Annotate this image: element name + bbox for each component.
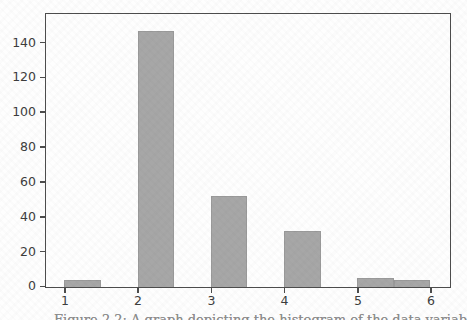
- y-axis-tick-mark: [40, 146, 45, 148]
- y-axis-tick-label: 100: [4, 105, 36, 119]
- y-axis-tick-label: 40: [4, 210, 36, 224]
- y-axis-tick-label: 80: [4, 140, 36, 154]
- x-axis-tick-label: 1: [50, 294, 80, 308]
- caption-fragment: Figure 2.2: A graph depicting the histog…: [54, 313, 448, 320]
- y-axis-tick-mark: [40, 181, 45, 183]
- y-axis-tick-label: 140: [4, 36, 36, 50]
- histogram-bar: [138, 31, 175, 287]
- x-axis-tick-label: 5: [343, 294, 373, 308]
- x-axis-tick-label: 4: [270, 294, 300, 308]
- y-axis-tick-mark: [40, 111, 45, 113]
- x-axis-tick-label: 6: [416, 294, 446, 308]
- histogram-bar: [357, 278, 394, 287]
- histogram-bar: [284, 231, 321, 287]
- histogram-bar: [211, 196, 248, 287]
- histogram-bar: [64, 280, 101, 287]
- x-axis-tick-label: 2: [123, 294, 153, 308]
- y-axis-tick-label: 120: [4, 70, 36, 84]
- y-axis-tick-mark: [40, 251, 45, 253]
- y-axis-tick-mark: [40, 77, 45, 79]
- y-axis-tick-mark: [40, 286, 45, 288]
- y-axis-tick-label: 0: [4, 279, 36, 293]
- histogram-bar: [394, 280, 431, 287]
- y-axis-tick-label: 60: [4, 175, 36, 189]
- y-axis-tick-mark: [40, 42, 45, 44]
- y-axis-tick-label: 20: [4, 245, 36, 259]
- y-axis-tick-mark: [40, 216, 45, 218]
- plot-area: [45, 13, 451, 288]
- x-axis-tick-label: 3: [196, 294, 226, 308]
